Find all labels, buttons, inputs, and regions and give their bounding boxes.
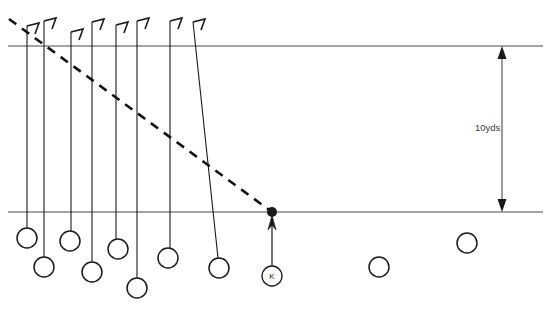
player-7 (158, 248, 178, 268)
kicker-label: K (269, 272, 275, 281)
path-2-flag-icon (44, 18, 56, 29)
kick-spot-dot (267, 207, 277, 217)
path-1 (27, 23, 39, 228)
player-4 (82, 262, 102, 282)
path-2 (44, 18, 56, 257)
player-paths-group (27, 18, 218, 278)
dimension-arrowhead-down-icon (498, 199, 507, 212)
player-8 (209, 258, 229, 278)
player-6 (127, 278, 147, 298)
path-8-flag-icon (193, 19, 205, 30)
kickoff-coverage-diagram: 10ydsK (0, 0, 550, 314)
ten-yard-label: 10yds (475, 122, 501, 133)
player-10 (457, 233, 477, 253)
player-1 (17, 228, 37, 248)
path-7-flag-icon (170, 18, 182, 29)
diagram-canvas: 10ydsK (0, 0, 550, 314)
player-9 (369, 257, 389, 277)
players-group (17, 228, 477, 298)
path-8 (193, 19, 218, 258)
field-lines-group (8, 46, 543, 212)
path-5-flag-icon (116, 22, 128, 33)
player-2 (34, 257, 54, 277)
path-7 (170, 18, 182, 248)
dimension-arrowhead-up-icon (498, 46, 507, 59)
path-3 (71, 29, 83, 231)
dashed-coverage-path-group (9, 19, 272, 212)
path-4 (92, 19, 104, 262)
path-6-flag-icon (137, 18, 149, 29)
path-4-flag-icon (92, 19, 104, 30)
path-8-stem (193, 22, 218, 258)
player-3 (60, 231, 80, 251)
path-6 (137, 18, 149, 278)
dashed-coverage-path (9, 19, 272, 212)
path-3-flag-icon (71, 29, 83, 40)
player-5 (108, 239, 128, 259)
path-5 (116, 22, 128, 239)
